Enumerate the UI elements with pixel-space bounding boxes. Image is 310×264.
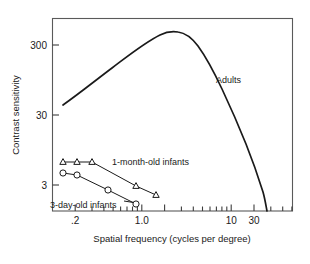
x-tick-label-10: 10 [226,215,238,226]
annotation-three-day-old-infants: 3-day-old infants [50,200,117,210]
y-tick-label-3: 3 [41,180,47,191]
y-tick-label-30: 30 [36,110,48,121]
marker-circle [105,187,111,193]
series-adults-curve [63,32,267,211]
y-axis-title: Contrast sensitivity [10,75,21,155]
annotation-adults: Adults [216,75,242,85]
annotation-one-month-old-infants: 1-month-old infants [112,157,190,167]
marker-triangle [133,183,139,189]
y-tick-label-300: 300 [30,40,47,51]
y-axis-ticks [53,45,60,185]
x-tick-label-0_2: .2 [71,215,80,226]
marker-circle [60,170,66,176]
marker-circle [133,201,139,207]
x-tick-label-30: 30 [248,215,260,226]
marker-circle [74,172,80,178]
contrast-sensitivity-chart: 300 30 3 Contrast sensitivity .2 1.0 10 … [0,0,310,264]
x-axis-title: Spatial frequency (cycles per degree) [93,233,250,244]
x-tick-label-1_0: 1.0 [135,215,149,226]
plot-frame [53,19,293,212]
